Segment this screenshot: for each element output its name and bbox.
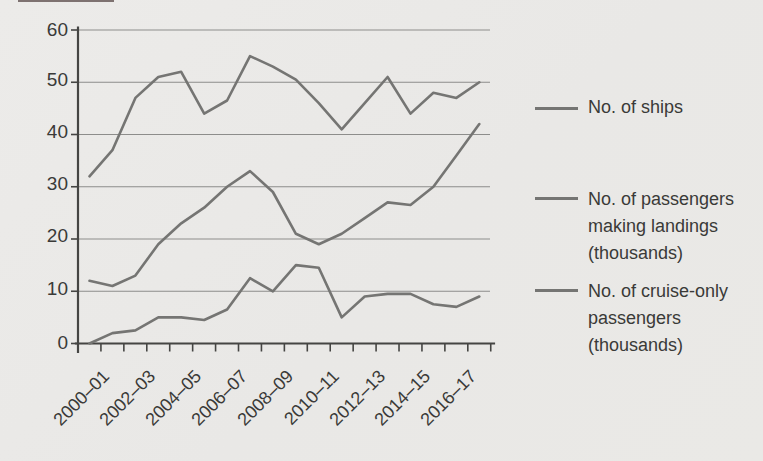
y-tick-label-20: 20	[18, 225, 68, 247]
gridlines	[78, 30, 490, 291]
chart-page: 60 50 40 30 20 10 0 2000–01 2002–03 2004…	[0, 0, 763, 461]
series-ships-line	[90, 56, 480, 176]
y-tick-label-50: 50	[18, 69, 68, 91]
x-ticks	[78, 344, 491, 352]
y-tick-label-30: 30	[18, 173, 68, 195]
legend-swatch-ships	[535, 107, 578, 110]
legend-label-passengers-landings: No. of passengers making landings (thous…	[588, 186, 760, 267]
legend-swatch-passengers-landings	[535, 197, 578, 200]
legend-label-ships: No. of ships	[588, 95, 760, 119]
legend-swatch-cruise-only	[535, 289, 578, 292]
series-passengers-landings-line	[90, 124, 480, 286]
y-tick-label-0: 0	[18, 332, 68, 354]
series-cruise-only-line	[90, 265, 480, 343]
y-tick-label-60: 60	[18, 19, 68, 41]
legend-label-cruise-only: No. of cruise-only passengers (thousands…	[588, 278, 760, 359]
y-tick-label-10: 10	[18, 278, 68, 300]
y-tick-label-40: 40	[18, 121, 68, 143]
